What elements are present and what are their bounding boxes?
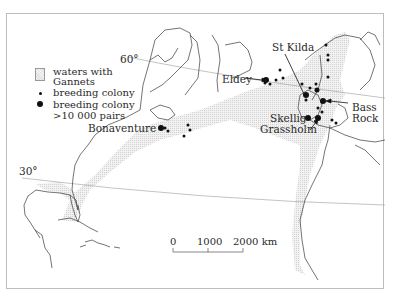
label-rock: Rock [352,113,378,124]
latitude-30-label: 30° [19,166,38,177]
legend-waters-line2: Gannets [53,77,95,87]
map-canvas [0,0,397,300]
scale-label-0: 0 [170,236,176,247]
label-st-kilda: St Kilda [272,42,314,53]
legend-small-colony: breeding colony [53,88,135,98]
scale-label-1000: 1000 [197,236,222,247]
scale-bar [173,248,243,252]
label-eldey: Eldey [222,74,252,85]
label-grassholm: Grassholm [260,124,317,135]
latitude-60-label: 60° [120,54,139,65]
small-colony-icon [39,92,42,95]
legend-large-colony-line1: breeding colony [53,100,135,110]
label-bonaventure: Bonaventure [88,123,156,134]
large-colony-icon [37,101,43,107]
scale-label-2000: 2000 km [233,236,277,247]
legend-large-colony-line2: >10 000 pairs [53,111,125,121]
waters-swatch-icon [35,68,45,81]
